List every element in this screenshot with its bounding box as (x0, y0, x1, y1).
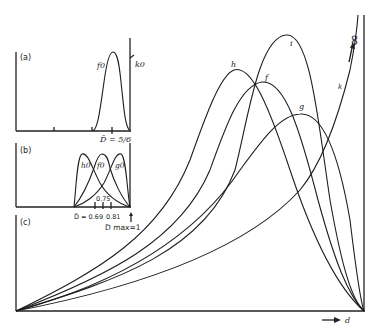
d-axis-arrowhead (334, 317, 341, 323)
mean-label-a: D̄ = 5/6 (99, 135, 131, 144)
curve-f-label: f (264, 73, 270, 82)
diagram-canvas: (a) f0 k0 D̄ = 5/6 (b) h0 f0 g0 0.75 D̄ … (0, 0, 378, 333)
infinity-label: ∞ (346, 34, 364, 47)
curve-k (16, 15, 358, 311)
curve-h (16, 69, 364, 311)
dmax-arrowhead (129, 212, 133, 216)
curve-i-label: i (290, 39, 293, 48)
curve-f (16, 82, 364, 311)
panel-b-label: (b) (20, 146, 31, 155)
dmax-label: D max=1 (105, 223, 141, 232)
g0-label: g0 (115, 161, 125, 170)
mean-label-b: D̄ = 0.69 (74, 213, 103, 221)
curve-h-label: h (231, 60, 236, 69)
curve-f0-label: f0 (96, 61, 105, 70)
f0-label: f0 (96, 161, 105, 170)
curve-g (16, 114, 364, 311)
k0-label: k0 (135, 60, 145, 69)
curve-k-label: k (338, 83, 342, 91)
panel-b: (b) h0 f0 g0 0.75 D̄ = 0.69 0.81 D max=1 (16, 143, 141, 232)
h0-label: h0 (81, 161, 91, 170)
panel-a: (a) f0 k0 D̄ = 5/6 (16, 38, 145, 144)
panel-a-label: (a) (20, 53, 31, 62)
panel-c-label: (c) (20, 218, 31, 227)
panel-c: (c) h f i g k ∞ d (16, 15, 365, 325)
tick-label-081: 0.81 (106, 213, 120, 221)
d-axis-label: d (345, 316, 350, 325)
tick-label-075: 0.75 (96, 195, 110, 203)
curve-g-label: g (299, 102, 304, 111)
